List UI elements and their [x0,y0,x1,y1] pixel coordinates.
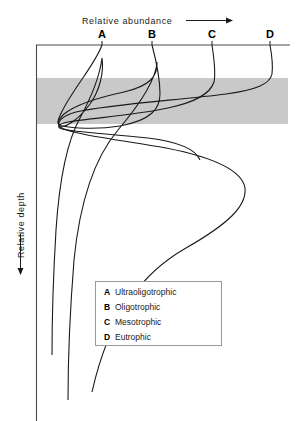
curve-label-c: C [208,28,216,40]
legend-label-c: Mesotrophic [115,317,162,327]
legend-label-a: Ultraoligotrophic [115,287,177,297]
legend: A Ultraoligotrophic B Oligotrophic C Mes… [96,282,222,346]
legend-label-b: Oligotrophic [115,302,161,312]
curve-label-d: D [266,28,274,40]
legend-key-c: C [104,317,110,327]
x-axis-arrow-icon [186,18,233,24]
abundance-depth-diagram: Relative abundance Relative depth A B C … [0,0,296,421]
curve-label-a: A [98,28,106,40]
curve-label-b: B [148,28,156,40]
curve-tick-marks [102,41,270,45]
x-axis-label: Relative abundance [82,16,172,26]
legend-key-b: B [104,302,110,312]
legend-key-a: A [104,287,110,297]
legend-key-d: D [104,332,110,342]
legend-label-d: Eutrophic [115,332,152,342]
